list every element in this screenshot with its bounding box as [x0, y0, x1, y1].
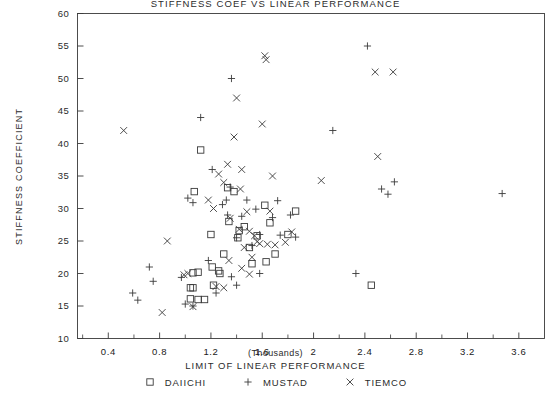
marker-square — [262, 202, 268, 208]
marker-square — [263, 259, 269, 265]
series-tiemco — [120, 52, 396, 316]
marker-square — [285, 231, 291, 237]
marker-square — [249, 261, 255, 267]
x-tick-label: 0.8 — [140, 346, 180, 357]
marker-square — [368, 282, 374, 288]
y-tick-label-text: 15 — [38, 300, 70, 311]
y-tick-label: 40 — [38, 138, 70, 149]
y-tick-label: 20 — [38, 268, 70, 279]
scatter-plot-figure: STIFFNESS COEF VS LINEAR PERFORMANCE STI… — [0, 0, 551, 397]
y-tick-label: 15 — [38, 300, 70, 311]
x-tick-label: 3.2 — [448, 346, 488, 357]
y-tick-label: 35 — [38, 170, 70, 181]
legend-marker-square-icon — [144, 376, 156, 388]
y-tick-label: 50 — [38, 73, 70, 84]
x-tick-label: 1.6 — [242, 346, 282, 357]
legend-item-tiemco[interactable]: TIEMCO — [344, 376, 407, 388]
y-tick-label: 30 — [38, 203, 70, 214]
legend-marker-cross-icon — [344, 376, 356, 388]
legend-item-daiichi[interactable]: DAIICHI — [144, 376, 206, 388]
marker-square — [272, 251, 278, 257]
y-tick-label: 10 — [38, 333, 70, 344]
y-tick-label-text: 20 — [38, 268, 70, 279]
series-mustad — [129, 42, 506, 309]
y-tick-label-text: 50 — [38, 73, 70, 84]
marker-square — [292, 208, 298, 214]
marker-square — [208, 231, 214, 237]
y-tick-label-text: 55 — [38, 40, 70, 51]
y-tick-label-text: 40 — [38, 138, 70, 149]
legend-label: MUSTAD — [263, 377, 308, 388]
y-tick-label: 45 — [38, 105, 70, 116]
marker-square — [209, 264, 215, 270]
x-tick-label: 0.4 — [88, 346, 128, 357]
y-tick-label-text: 25 — [38, 235, 70, 246]
x-tick-label: 2 — [294, 346, 334, 357]
plot-frame — [78, 14, 545, 339]
marker-square — [187, 296, 193, 302]
marker-square — [195, 296, 201, 302]
y-tick-label-text: 30 — [38, 203, 70, 214]
marker-square — [201, 296, 207, 302]
plot-area — [0, 0, 551, 397]
marker-square — [190, 285, 196, 291]
series-daiichi — [187, 147, 374, 303]
y-tick-label-text: 60 — [38, 8, 70, 19]
y-tick-label-text: 10 — [38, 333, 70, 344]
marker-square — [197, 147, 203, 153]
legend-item-mustad[interactable]: MUSTAD — [242, 376, 308, 388]
x-tick-label: 3.6 — [499, 346, 539, 357]
x-tick-label: 2.8 — [396, 346, 436, 357]
x-tick-label: 1.2 — [191, 346, 231, 357]
x-tick-label: 2.4 — [345, 346, 385, 357]
chart-legend: DAIICHIMUSTADTIEMCO — [0, 376, 551, 388]
marker-square — [147, 379, 153, 385]
legend-label: DAIICHI — [165, 377, 206, 388]
marker-square — [221, 251, 227, 257]
legend-marker-plus-icon — [242, 376, 254, 388]
marker-square — [187, 285, 193, 291]
y-tick-label: 25 — [38, 235, 70, 246]
marker-square — [231, 188, 237, 194]
legend-label: TIEMCO — [365, 377, 407, 388]
y-tick-label: 60 — [38, 8, 70, 19]
marker-square — [191, 188, 197, 194]
y-tick-label-text: 35 — [38, 170, 70, 181]
y-tick-label: 55 — [38, 40, 70, 51]
y-tick-label-text: 45 — [38, 105, 70, 116]
